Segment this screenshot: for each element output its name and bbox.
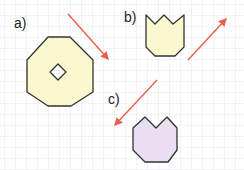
shape-b-tulip (146, 15, 184, 56)
diagram-canvas (0, 0, 244, 170)
label-a: a) (14, 16, 26, 30)
label-c: c) (108, 92, 120, 106)
label-b: b) (124, 10, 136, 24)
